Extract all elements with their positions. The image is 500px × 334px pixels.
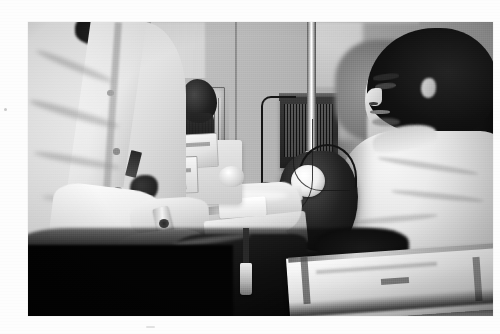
lab-coat-button xyxy=(107,90,114,96)
patient-nostril xyxy=(369,102,378,105)
lab-coat-button xyxy=(113,148,120,154)
photo-page: Black-and-white photograph of a blood do… xyxy=(0,0,500,334)
supply-cap xyxy=(219,166,245,187)
tubing-drop-line xyxy=(243,228,249,266)
foreground-shadow-deep xyxy=(28,245,233,316)
scan-speck xyxy=(146,326,155,328)
tubing-clamp xyxy=(240,263,252,295)
collection-tubing xyxy=(293,143,350,191)
photograph xyxy=(28,22,493,316)
patient-mouth xyxy=(370,110,390,114)
scan-speck xyxy=(4,108,7,111)
